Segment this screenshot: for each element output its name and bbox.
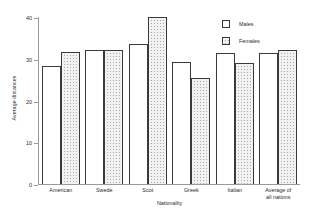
bar-males[interactable] xyxy=(216,53,235,185)
bar-groups xyxy=(39,17,300,184)
bar-females[interactable] xyxy=(61,52,80,184)
bar-males[interactable] xyxy=(85,50,104,184)
x-axis-label: Nationality xyxy=(39,200,300,206)
legend-item-males[interactable]: Males xyxy=(222,20,260,28)
bar-females[interactable] xyxy=(278,50,297,184)
y-tick-mark xyxy=(34,143,38,144)
bar-group xyxy=(126,17,170,184)
bar-males[interactable] xyxy=(172,62,191,184)
bar-females[interactable] xyxy=(148,17,167,184)
bar-males[interactable] xyxy=(259,53,278,184)
y-tick-mark xyxy=(34,102,38,103)
bar-group xyxy=(39,17,83,184)
bar-group xyxy=(83,17,127,184)
y-tick-label: 10 xyxy=(26,140,32,146)
legend: Males Females xyxy=(222,20,260,54)
legend-item-females[interactable]: Females xyxy=(222,37,260,45)
y-tick-label: 40 xyxy=(26,15,32,21)
bar-chart: Average distances 010203040 AmericanSwed… xyxy=(0,0,311,217)
y-tick-mark xyxy=(34,185,38,186)
legend-label-males: Males xyxy=(239,21,253,27)
y-tick-mark xyxy=(34,18,38,19)
y-tick-mark xyxy=(34,60,38,61)
bar-females[interactable] xyxy=(104,50,123,184)
y-tick-label: 20 xyxy=(26,99,32,105)
bar-females[interactable] xyxy=(235,63,254,184)
bar-females[interactable] xyxy=(191,78,210,184)
bar-group xyxy=(170,17,214,184)
plot-area: 010203040 xyxy=(38,17,300,185)
y-axis-label: Average distances xyxy=(11,58,17,138)
legend-swatch-males-icon xyxy=(222,20,230,28)
y-tick-label: 0 xyxy=(29,182,32,188)
legend-label-females: Females xyxy=(239,38,260,44)
y-tick-label: 30 xyxy=(26,57,32,63)
bar-group xyxy=(257,17,301,184)
bar-males[interactable] xyxy=(129,44,148,184)
x-axis-line xyxy=(38,184,300,185)
legend-swatch-females-icon xyxy=(222,37,230,45)
bar-males[interactable] xyxy=(42,66,61,184)
